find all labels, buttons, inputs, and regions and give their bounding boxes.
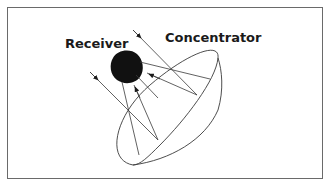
concentrator-label: Concentrator bbox=[165, 30, 261, 45]
reflected-ray-2 bbox=[134, 85, 158, 140]
reflected-ray-1 bbox=[147, 73, 197, 95]
receiver-shape bbox=[111, 51, 143, 84]
receiver-label: Receiver bbox=[65, 36, 129, 51]
solar-dish-diagram bbox=[0, 0, 333, 185]
